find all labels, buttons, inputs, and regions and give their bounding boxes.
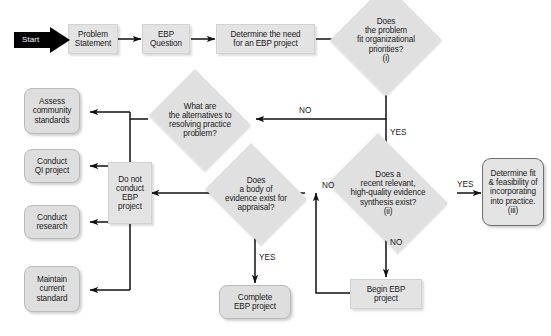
node-body-of-evidence[interactable]: Does a body of evidence exist for apprai… (200, 148, 312, 240)
node-determine-need[interactable]: Determine the need for an EBP project (216, 24, 315, 54)
node-fit-priorities[interactable]: Does the problem fit organizational prio… (330, 0, 442, 96)
node-complete-ebp[interactable]: Complete EBP project (219, 285, 291, 319)
node-determine-need-label: Determine the need for an EBP project (230, 30, 300, 48)
node-begin-ebp[interactable]: Begin EBP project (350, 279, 422, 309)
node-do-not-conduct[interactable]: Do not conduct EBP project (108, 162, 152, 224)
node-ebp-question[interactable]: EBP Question (142, 24, 190, 54)
edge-label-evidence-no: NO (322, 181, 334, 190)
start-label: Start (22, 35, 39, 44)
node-fit-priorities-label: Does the problem fit organizational prio… (357, 17, 415, 63)
edge-label-evidence-yes: YES (259, 253, 276, 262)
node-maintain-standard[interactable]: Maintain current standard (24, 266, 80, 312)
node-conduct-qi-label: Conduct QI project (35, 157, 70, 175)
node-complete-ebp-label: Complete EBP project (234, 293, 276, 311)
node-problem-statement[interactable]: Problem Statement (68, 24, 118, 54)
node-conduct-research-label: Conduct research (36, 213, 67, 231)
node-begin-ebp-label: Begin EBP project (367, 285, 406, 303)
node-conduct-research[interactable]: Conduct research (24, 205, 80, 239)
node-alternatives-label: What are the alternatives to resolving p… (169, 102, 232, 139)
node-ebp-question-label: EBP Question (150, 30, 182, 48)
node-conduct-qi[interactable]: Conduct QI project (24, 149, 80, 183)
node-determine-fit-label: Determine fit & feasibility of incorpora… (489, 169, 538, 215)
node-assess-community-label: Assess community standards (33, 97, 72, 125)
node-assess-community[interactable]: Assess community standards (24, 88, 80, 134)
edge-label-fit-yes: YES (390, 128, 407, 137)
node-evidence-synthesis[interactable]: Does a recent relevant, high-quality evi… (318, 143, 458, 243)
edge-label-fit-no: NO (299, 106, 311, 115)
node-problem-statement-label: Problem Statement (75, 30, 111, 48)
node-determine-fit[interactable]: Determine fit & feasibility of incorpora… (482, 158, 544, 226)
node-evidence-synthesis-label: Does a recent relevant, high-quality evi… (351, 170, 426, 216)
node-body-of-evidence-label: Does a body of evidence exist for apprai… (225, 176, 287, 213)
node-do-not-conduct-label: Do not conduct EBP project (116, 175, 144, 212)
node-maintain-standard-label: Maintain current standard (36, 275, 67, 303)
flowchart-canvas: Start Problem Statement EBP Question Det… (0, 0, 551, 336)
edge-label-synthesis-no: NO (390, 238, 402, 247)
edge-label-synthesis-yes: YES (457, 180, 474, 189)
